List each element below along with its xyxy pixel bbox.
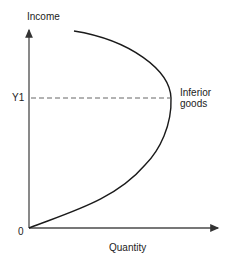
y1-label: Y1 (12, 92, 24, 104)
engel-curve-diagram (0, 0, 233, 265)
engel-curve (29, 31, 171, 228)
origin-label: 0 (18, 226, 24, 238)
curve-label-line2: goods (180, 98, 207, 110)
y-axis-label: Income (27, 11, 60, 23)
x-axis-label: Quantity (109, 242, 146, 254)
